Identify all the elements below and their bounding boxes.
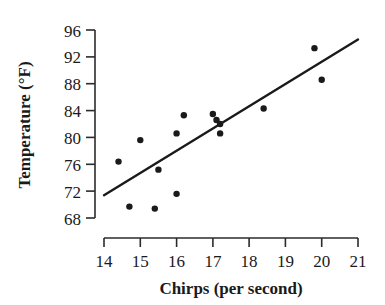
data-point [311,45,317,51]
trend-line [104,39,358,195]
data-point [217,121,223,127]
data-point [155,166,161,172]
chart-canvas: Temperature (°F) 96 92 88 84 80 76 72 68 [0,0,385,305]
x-tick-label-20: 20 [313,252,330,271]
x-tick-label-17: 17 [204,252,222,271]
data-point [137,137,143,143]
x-tick-label-16: 16 [168,252,185,271]
y-axis-tick-labels: 96 92 88 84 80 76 72 68 [64,22,82,229]
x-tick-label-14: 14 [96,252,114,271]
data-point [260,105,266,111]
data-point [115,158,121,164]
x-axis-title: Chirps (per second) [159,279,302,298]
x-axis-ticks [104,238,358,247]
x-tick-label-19: 19 [277,252,294,271]
x-tick-label-15: 15 [132,252,149,271]
data-point [319,76,325,82]
data-point [181,112,187,118]
scatter-chart-figure: Temperature (°F) 96 92 88 84 80 76 72 68 [0,0,385,305]
y-tick-label-68: 68 [64,210,81,229]
scatter-points-group [115,45,325,212]
y-tick-label-92: 92 [64,48,81,67]
y-axis-title: Temperature (°F) [15,61,34,188]
x-tick-label-21: 21 [350,252,367,271]
data-point [173,191,179,197]
data-point [126,203,132,209]
data-point [210,111,216,117]
data-point [217,130,223,136]
y-tick-label-76: 76 [64,156,81,175]
x-axis-tick-labels: 14 15 16 17 18 19 20 21 [96,252,367,271]
x-tick-label-18: 18 [241,252,258,271]
y-tick-label-80: 80 [64,129,81,148]
y-tick-label-72: 72 [64,183,81,202]
y-tick-label-84: 84 [64,102,82,121]
y-axis-ticks [86,30,95,218]
data-point [173,130,179,136]
y-tick-label-88: 88 [64,75,81,94]
data-point [152,205,158,211]
y-tick-label-96: 96 [64,22,81,41]
